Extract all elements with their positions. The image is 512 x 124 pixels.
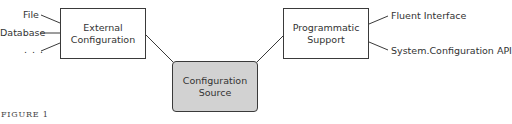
input-more-label: . . . <box>24 44 44 55</box>
source-line1: Configuration <box>183 75 247 87</box>
programmatic-line2: Support <box>293 34 360 46</box>
configuration-source-box: Configuration Source <box>172 61 258 112</box>
figure-caption: FIGURE 1 <box>1 110 49 119</box>
source-line2: Source <box>183 87 247 99</box>
system-configuration-api-label: System.Configuration API <box>391 45 512 56</box>
input-file-label: File <box>23 9 39 20</box>
programmatic-support-box: Programmatic Support <box>283 8 369 59</box>
external-line2: Configuration <box>71 34 135 46</box>
external-line1: External <box>71 22 135 34</box>
external-configuration-box: External Configuration <box>60 8 146 59</box>
programmatic-line1: Programmatic <box>293 22 360 34</box>
input-database-label: Database <box>0 27 45 38</box>
fluent-interface-label: Fluent Interface <box>391 10 466 21</box>
